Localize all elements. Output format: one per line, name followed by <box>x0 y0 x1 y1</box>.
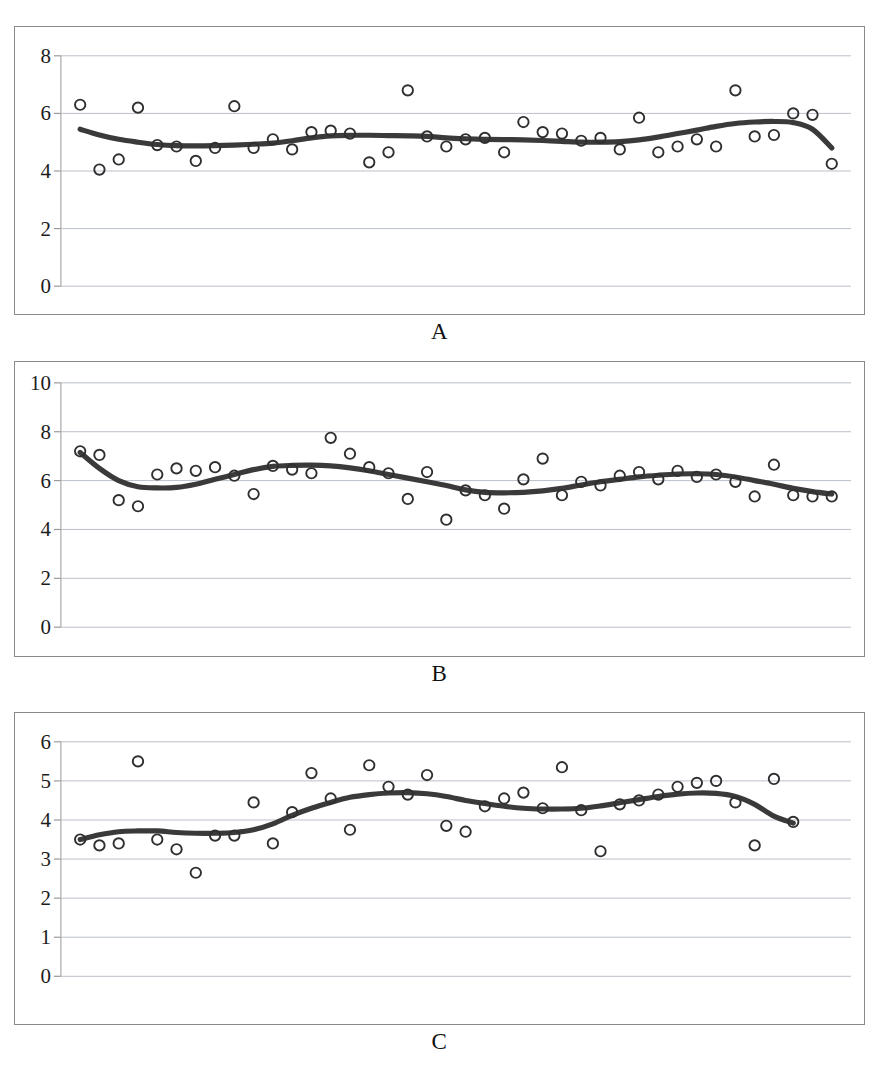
data-point-marker <box>191 156 201 166</box>
data-point-marker <box>769 774 779 784</box>
data-point-marker <box>133 756 143 766</box>
data-point-marker <box>152 834 162 844</box>
data-point-marker <box>403 85 413 95</box>
y-axis-tick-label: 6 <box>40 469 50 493</box>
y-axis-tick-label: 5 <box>40 769 50 793</box>
scatter-plot-c: 0123456 <box>15 713 864 1024</box>
data-point-marker <box>692 134 702 144</box>
data-point-marker <box>306 768 316 778</box>
data-point-marker <box>114 154 124 164</box>
data-point-marker <box>171 844 181 854</box>
data-point-marker <box>383 782 393 792</box>
data-point-marker <box>441 141 451 151</box>
y-axis-tick-label: 8 <box>40 44 50 68</box>
data-point-marker <box>133 102 143 112</box>
scatter-plot-a: 02468 <box>15 27 864 314</box>
plot-frame-b: 0246810 <box>14 361 865 657</box>
data-point-marker <box>345 449 355 459</box>
y-axis-tick-label: 10 <box>30 371 51 395</box>
data-point-marker <box>422 467 432 477</box>
data-point-marker <box>595 846 605 856</box>
data-point-marker <box>653 147 663 157</box>
data-point-marker <box>518 474 528 484</box>
data-point-marker <box>557 762 567 772</box>
data-point-marker <box>191 466 201 476</box>
data-point-marker <box>268 838 278 848</box>
data-point-marker <box>499 147 509 157</box>
y-axis-tick-label: 4 <box>40 159 51 183</box>
data-point-marker <box>672 782 682 792</box>
trend-curve <box>80 793 793 840</box>
y-axis-tick-label: 8 <box>40 420 50 444</box>
data-point-marker <box>557 128 567 138</box>
data-point-marker <box>441 821 451 831</box>
scatter-plot-b: 0246810 <box>15 362 864 656</box>
data-point-marker <box>422 770 432 780</box>
panel-c: 0123456 C <box>14 712 865 1053</box>
data-point-marker <box>364 157 374 167</box>
plot-frame-c: 0123456 <box>14 712 865 1025</box>
data-point-marker <box>711 141 721 151</box>
data-point-marker <box>537 127 547 137</box>
panel-b: 0246810 B <box>14 361 865 685</box>
data-point-marker <box>364 760 374 770</box>
data-point-marker <box>615 144 625 154</box>
data-point-marker <box>229 101 239 111</box>
trend-curve <box>80 121 832 148</box>
data-point-marker <box>94 450 104 460</box>
y-axis-tick-label: 1 <box>40 925 50 949</box>
trend-curve <box>80 452 832 494</box>
y-axis-tick-label: 2 <box>40 217 50 241</box>
data-point-marker <box>75 100 85 110</box>
data-point-marker <box>306 468 316 478</box>
data-point-marker <box>634 113 644 123</box>
data-point-marker <box>133 501 143 511</box>
data-point-marker <box>152 469 162 479</box>
data-point-marker <box>749 131 759 141</box>
data-point-marker <box>749 491 759 501</box>
data-point-marker <box>94 840 104 850</box>
data-point-marker <box>403 494 413 504</box>
data-point-marker <box>557 490 567 500</box>
data-point-marker <box>210 462 220 472</box>
y-axis-tick-label: 0 <box>40 615 50 639</box>
data-point-marker <box>114 495 124 505</box>
y-axis-tick-label: 4 <box>40 517 51 541</box>
data-point-marker <box>114 838 124 848</box>
data-point-marker <box>769 460 779 470</box>
y-axis-tick-label: 3 <box>40 847 50 871</box>
panel-a: 02468 A <box>14 26 865 343</box>
panel-caption-a: A <box>14 320 865 343</box>
data-point-marker <box>518 787 528 797</box>
data-point-marker <box>730 85 740 95</box>
panel-caption-c: C <box>14 1030 865 1053</box>
data-point-marker <box>518 117 528 127</box>
data-point-marker <box>827 159 837 169</box>
data-point-marker <box>672 141 682 151</box>
data-point-marker <box>94 164 104 174</box>
y-axis-tick-label: 4 <box>40 808 51 832</box>
data-point-marker <box>692 778 702 788</box>
y-axis-tick-label: 0 <box>40 274 50 298</box>
data-point-marker <box>537 453 547 463</box>
data-point-marker <box>287 144 297 154</box>
panel-caption-b: B <box>14 662 865 685</box>
data-point-marker <box>769 130 779 140</box>
data-point-marker <box>383 147 393 157</box>
data-point-marker <box>248 489 258 499</box>
figure-container: 02468 A 0246810 B 0123456 C <box>0 0 879 1065</box>
y-axis-tick-label: 2 <box>40 886 50 910</box>
data-point-marker <box>345 825 355 835</box>
data-point-marker <box>191 868 201 878</box>
data-point-marker <box>171 463 181 473</box>
data-point-marker <box>807 110 817 120</box>
data-point-marker <box>460 827 470 837</box>
data-point-marker <box>499 504 509 514</box>
data-point-marker <box>441 515 451 525</box>
data-point-marker <box>749 840 759 850</box>
data-point-marker <box>248 797 258 807</box>
data-point-marker <box>788 490 798 500</box>
y-axis-tick-label: 0 <box>40 964 50 988</box>
data-point-marker <box>499 793 509 803</box>
y-axis-tick-label: 2 <box>40 566 50 590</box>
